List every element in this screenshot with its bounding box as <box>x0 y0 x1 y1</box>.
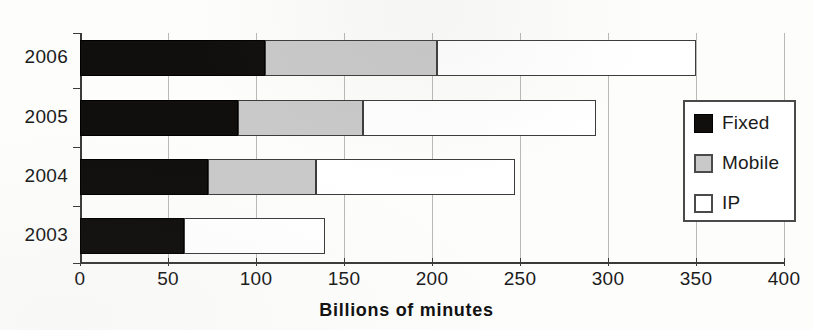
bar-row <box>80 218 784 254</box>
x-axis-tick <box>784 258 785 266</box>
bar-segment-ip <box>437 40 696 76</box>
x-axis-title: Billions of minutes <box>0 300 813 321</box>
x-axis-tick-label: 50 <box>138 268 198 290</box>
y-axis-tick-label: 2006 <box>4 46 68 68</box>
x-axis-tick-label: 0 <box>50 268 110 290</box>
bar-segment-mobile <box>238 100 363 136</box>
legend-swatch-ip-icon <box>694 194 713 213</box>
bar-segment-fixed <box>80 159 208 195</box>
x-axis-tick-label: 250 <box>490 268 550 290</box>
x-axis-tick-label: 400 <box>754 268 813 290</box>
bar-segment-fixed <box>80 100 238 136</box>
x-axis-tick <box>168 258 169 266</box>
y-axis-tick-label: 2005 <box>4 106 68 128</box>
bar-segment-fixed <box>80 40 265 76</box>
stacked-bar-chart: 050100150200250300350400 200620052004200… <box>0 0 813 330</box>
bar-segment-ip <box>316 159 515 195</box>
bar-row <box>80 40 784 76</box>
x-axis-tick <box>80 258 81 266</box>
y-axis-tick-label: 2003 <box>4 224 68 246</box>
y-axis-tick <box>73 147 81 148</box>
x-axis-tick <box>344 258 345 266</box>
bar-segment-ip <box>184 218 325 254</box>
x-axis-tick <box>432 258 433 266</box>
legend-item-ip: IP <box>694 192 740 214</box>
x-axis-tick-label: 300 <box>578 268 638 290</box>
y-axis-tick-label: 2004 <box>4 165 68 187</box>
bar-row <box>80 159 784 195</box>
legend-swatch-fixed-icon <box>694 114 713 133</box>
x-axis-tick <box>256 258 257 266</box>
y-axis-tick <box>73 206 81 207</box>
x-axis-tick <box>696 258 697 266</box>
legend-label-mobile: Mobile <box>722 152 779 174</box>
x-axis-tick-label: 100 <box>226 268 286 290</box>
bar-row <box>80 100 784 136</box>
bar-segment-mobile <box>208 159 316 195</box>
x-axis-tick <box>520 258 521 266</box>
legend-item-mobile: Mobile <box>694 152 779 174</box>
legend-swatch-mobile-icon <box>694 154 713 173</box>
legend-label-ip: IP <box>722 192 740 214</box>
bar-segment-mobile <box>265 40 437 76</box>
y-axis-tick <box>73 263 81 264</box>
y-axis-tick <box>73 88 81 89</box>
x-axis-tick <box>608 258 609 266</box>
x-axis-tick-label: 150 <box>314 268 374 290</box>
legend-item-fixed: Fixed <box>694 112 769 134</box>
x-axis-tick-label: 200 <box>402 268 462 290</box>
chart-legend: Fixed Mobile IP <box>683 100 796 222</box>
x-axis-tick-label: 350 <box>666 268 726 290</box>
bar-segment-ip <box>363 100 596 136</box>
legend-label-fixed: Fixed <box>722 112 769 134</box>
y-axis-tick <box>73 33 81 34</box>
bar-segment-fixed <box>80 218 184 254</box>
